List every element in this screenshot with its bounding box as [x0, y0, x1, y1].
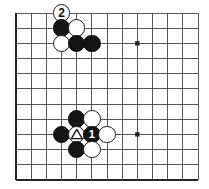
stone-move-number: 2 [58, 7, 65, 19]
white-stone [83, 141, 101, 159]
go-board-diagram: 21 [0, 0, 209, 189]
star-point [135, 132, 139, 136]
black-stone [83, 35, 101, 53]
board-grid [0, 0, 209, 189]
stone-move-number: 1 [89, 129, 95, 140]
star-point [135, 41, 139, 45]
white-stone [98, 126, 116, 144]
